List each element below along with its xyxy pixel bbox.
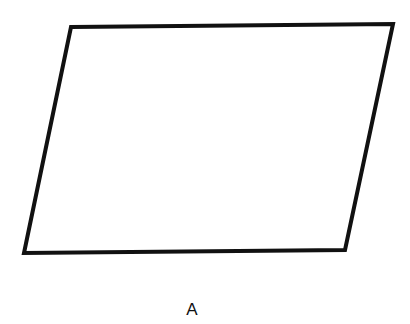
shape-label: A (0, 300, 384, 320)
diagram-canvas (0, 0, 410, 324)
parallelogram-shape (24, 24, 393, 253)
